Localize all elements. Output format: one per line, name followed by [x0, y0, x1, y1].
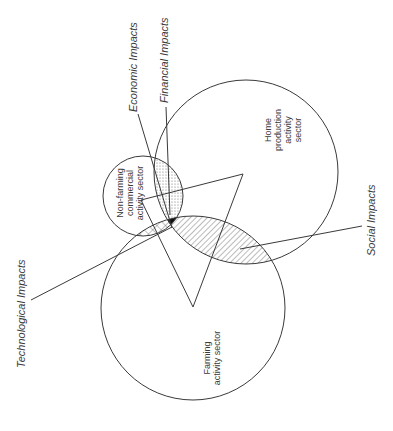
financial-impacts-label: Financial Impacts [158, 17, 170, 103]
svg-text:activity sector: activity sector [135, 166, 145, 221]
impacts-venn-diagram: Economic Impacts Financial Impacts Techn… [0, 0, 393, 431]
economic-impacts-label: Economic Impacts [127, 22, 139, 112]
svg-text:Home: Home [263, 118, 273, 142]
technological-impacts-label: Technological Impacts [15, 259, 27, 368]
svg-text:Farming: Farming [202, 341, 212, 374]
svg-text:activity: activity [283, 116, 293, 144]
technological-leader-line [31, 227, 172, 300]
farming-sector-label: Farming activity sector [202, 331, 222, 386]
home-sector-label: Home production activity sector [263, 109, 303, 151]
svg-text:Non-farming: Non-farming [115, 168, 125, 218]
svg-text:sector: sector [293, 118, 303, 143]
svg-text:commercial: commercial [125, 170, 135, 216]
svg-text:production: production [273, 109, 283, 151]
social-impacts-label: Social Impacts [365, 184, 377, 256]
svg-text:activity sector: activity sector [212, 331, 222, 386]
non-farming-sector-label: Non-farming commercial activity sector [115, 166, 145, 221]
